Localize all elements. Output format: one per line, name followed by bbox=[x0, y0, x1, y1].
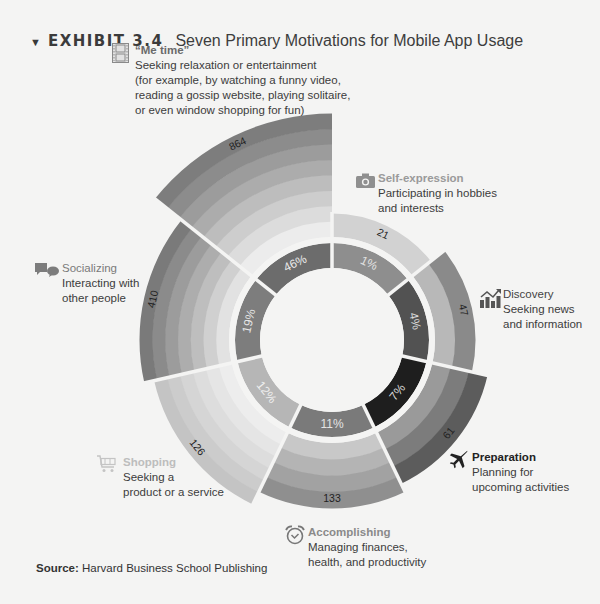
label-socializing: Socializing Interacting with other peopl… bbox=[62, 261, 139, 306]
film-icon bbox=[112, 43, 129, 67]
donut-hole bbox=[260, 268, 404, 412]
label-line: and interests bbox=[378, 201, 497, 216]
label-line: Seeking relaxation or entertainment bbox=[135, 58, 350, 73]
source-text: Harvard Business School Publishing bbox=[82, 562, 267, 574]
label-line: Interacting with bbox=[62, 276, 139, 291]
source-label: Source: bbox=[36, 562, 79, 574]
label-line: Participating in hobbies bbox=[378, 186, 497, 201]
label-line: Seeking a bbox=[123, 470, 224, 485]
label-line: Managing finances, bbox=[308, 540, 426, 555]
label-line: and information bbox=[503, 317, 582, 332]
cart-icon bbox=[97, 455, 117, 477]
percent-label: 11% bbox=[320, 417, 343, 431]
chat-bubbles-icon bbox=[35, 263, 59, 282]
label-line: product or a service bbox=[123, 485, 224, 500]
label-me-time: “Me time” Seeking relaxation or entertai… bbox=[135, 43, 350, 118]
label-line: (for example, by watching a funny video, bbox=[135, 73, 350, 88]
label-preparation: Preparation Planning for upcoming activi… bbox=[472, 450, 569, 495]
label-accomplishing: Accomplishing Managing finances, health,… bbox=[308, 525, 426, 570]
label-line: or even window shopping for fun) bbox=[135, 103, 350, 118]
label-line: Seeking news bbox=[503, 302, 582, 317]
label-head: Discovery bbox=[503, 287, 582, 302]
source-note: Source: Harvard Business School Publishi… bbox=[36, 562, 267, 574]
label-head: Self-expression bbox=[378, 171, 497, 186]
count-label: 133 bbox=[323, 492, 341, 504]
label-line: upcoming activities bbox=[472, 480, 569, 495]
label-head: Socializing bbox=[62, 261, 139, 276]
label-head: “Me time” bbox=[135, 43, 350, 58]
alarm-clock-icon bbox=[285, 525, 305, 549]
label-head: Preparation bbox=[472, 450, 569, 465]
label-line: health, and productivity bbox=[308, 555, 426, 570]
label-self-expression: Self-expression Participating in hobbies… bbox=[378, 171, 497, 216]
label-line: other people bbox=[62, 291, 139, 306]
label-line: Planning for bbox=[472, 465, 569, 480]
label-line: reading a gossip website, playing solita… bbox=[135, 88, 350, 103]
label-head: Accomplishing bbox=[308, 525, 426, 540]
airplane-icon bbox=[448, 448, 470, 474]
trend-chart-icon bbox=[480, 289, 501, 312]
camera-icon bbox=[356, 173, 375, 192]
label-shopping: Shopping Seeking a product or a service bbox=[123, 455, 224, 500]
label-head: Shopping bbox=[123, 455, 224, 470]
label-discovery: Discovery Seeking news and information bbox=[503, 287, 582, 332]
